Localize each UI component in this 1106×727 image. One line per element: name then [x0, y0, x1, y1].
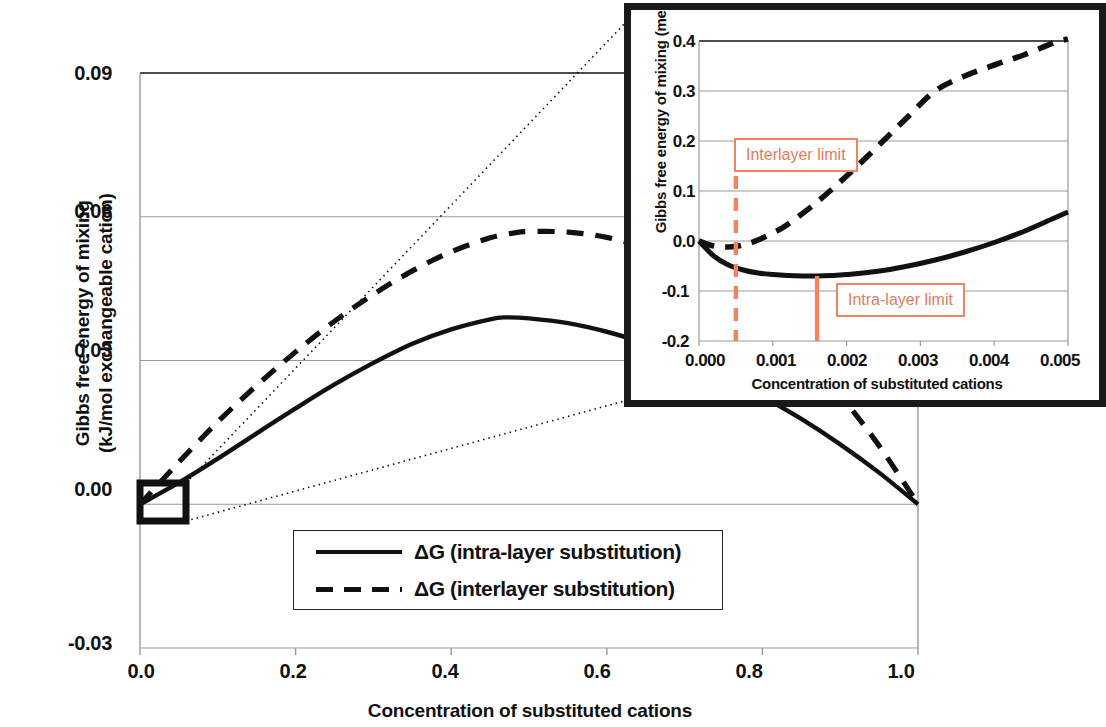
zoom-leader-line-0: [186, 20, 628, 483]
main-x-axis-label: Concentration of substituted cations: [140, 700, 920, 722]
inset-ytick-2: 0.2: [637, 132, 695, 152]
inset-ytick-6: -0.2: [631, 332, 689, 352]
main-xtick-4: 0.8: [714, 660, 784, 683]
main-ytick-1: 0.06: [22, 200, 112, 223]
intra-layer-limit-callout: Intra-layer limit: [836, 283, 965, 317]
main-ytick-0: 0.09: [22, 62, 112, 85]
inset-xtick-4: 0.004: [954, 351, 1024, 371]
main-y-axis-label: Gibbs free energy of mixing (kJ/mol exch…: [71, 133, 117, 513]
inset-ytick-1: 0.3: [637, 82, 695, 102]
main-xtick-1: 0.2: [258, 660, 328, 683]
inset-xtick-3: 0.003: [883, 351, 953, 371]
inset-ytick-4: 0.0: [637, 232, 695, 252]
legend-key-solid-line-icon: [316, 545, 402, 559]
legend-key-dashed-line-icon: [316, 582, 402, 596]
inset-xtick-2: 0.002: [812, 351, 882, 371]
inset-x-axis-label: Concentration of substituted cations: [667, 375, 1087, 392]
legend-item-intra-layer: ΔG (intra-layer substitution): [294, 535, 722, 568]
main-xtick-5: 1.0: [866, 660, 936, 683]
legend-item-interlayer: ΔG (interlayer substitution): [294, 572, 722, 605]
main-xtick-2: 0.4: [410, 660, 480, 683]
inset-ytick-0: 0.4: [637, 32, 695, 52]
inset-panel: Gibbs free energy of mixing (meV) Concen…: [624, 3, 1106, 407]
main-y-axis-label-line2: (kJ/mol exchangeable cation): [94, 133, 117, 513]
main-xtick-3: 0.6: [562, 660, 632, 683]
main-y-axis-label-line1: Gibbs free energy of mixing: [71, 133, 94, 513]
inset-xtick-5: 0.005: [1025, 351, 1095, 371]
zoom-leader-line-1: [186, 400, 628, 521]
inset-xtick-0: 0.000: [670, 351, 740, 371]
main-xtick-0: 0.0: [106, 660, 176, 683]
inset-xtick-1: 0.001: [741, 351, 811, 371]
legend-label-intra-layer: ΔG (intra-layer substitution): [414, 540, 681, 564]
gibbs-free-energy-figure: Gibbs free energy of mixing (kJ/mol exch…: [0, 0, 1106, 727]
inset-plot-canvas: [631, 10, 1099, 400]
interlayer-limit-callout: Interlayer limit: [734, 138, 858, 172]
main-ytick-4: -0.03: [22, 632, 112, 655]
main-ytick-3: 0.00: [22, 478, 112, 501]
inset-ytick-5: -0.1: [631, 282, 689, 302]
inset-ytick-3: 0.1: [637, 182, 695, 202]
main-ytick-2: 0.03: [22, 339, 112, 362]
legend-label-interlayer: ΔG (interlayer substitution): [414, 577, 675, 601]
legend: ΔG (intra-layer substitution) ΔG (interl…: [293, 530, 723, 610]
